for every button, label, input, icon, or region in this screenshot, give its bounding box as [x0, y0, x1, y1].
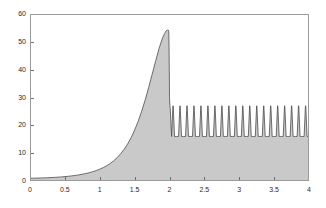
y-tick-label: 40 [2, 66, 26, 74]
y-tick-mark [31, 153, 34, 154]
x-tick-label: 0 [28, 186, 32, 194]
y-tick-label: 10 [2, 149, 26, 157]
x-tick-mark [135, 177, 136, 180]
x-tick-label: 2 [168, 186, 172, 194]
y-tick-mark [31, 98, 34, 99]
y-tick-label: 50 [2, 38, 26, 46]
x-tick-label: 0.5 [60, 186, 70, 194]
plot-area [30, 14, 309, 181]
chart-plot-svg [30, 14, 309, 181]
y-tick-label: 60 [2, 10, 26, 18]
chart-figure: 0102030405060 00.511.522.533.54 [0, 0, 326, 208]
x-tick-mark [204, 177, 205, 180]
y-tick-label: 30 [2, 94, 26, 102]
x-tick-label: 4 [307, 186, 311, 194]
x-tick-label: 2.5 [200, 186, 210, 194]
y-tick-label: 20 [2, 121, 26, 129]
x-tick-label: 1 [98, 186, 102, 194]
y-tick-mark [31, 42, 34, 43]
x-tick-mark [239, 177, 240, 180]
x-tick-mark [274, 177, 275, 180]
y-tick-label: 0 [2, 177, 26, 185]
y-tick-mark [31, 70, 34, 71]
x-tick-label: 3 [237, 186, 241, 194]
x-tick-label: 1.5 [130, 186, 140, 194]
x-tick-label: 3.5 [269, 186, 279, 194]
x-tick-mark [170, 177, 171, 180]
x-tick-mark [100, 177, 101, 180]
x-tick-mark [65, 177, 66, 180]
y-tick-mark [31, 125, 34, 126]
